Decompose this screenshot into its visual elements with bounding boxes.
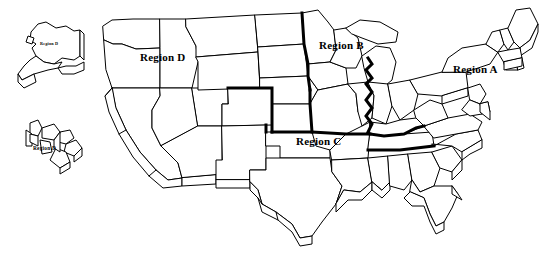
hawaii-lanai (40, 140, 52, 154)
state-mt (186, 15, 258, 57)
state-co (222, 88, 272, 126)
us-regions-map: Region D Region B Region C Region A Regi… (0, 0, 547, 273)
alaska-seward (26, 36, 34, 44)
state-wy (196, 52, 260, 90)
alaska-extrusion-east (80, 30, 84, 60)
state-ks (272, 104, 312, 132)
map-graphic (0, 0, 547, 273)
nm-extrusion (216, 180, 250, 188)
state-sd (258, 44, 308, 78)
state-nd (255, 13, 304, 47)
